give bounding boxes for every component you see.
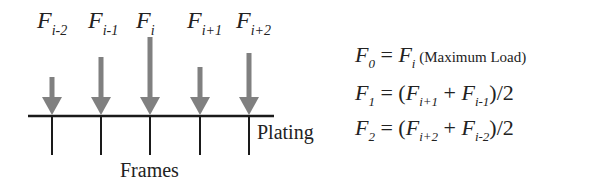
load-arrow-icon xyxy=(140,37,160,115)
load-arrow-icon xyxy=(239,53,259,115)
load-label-i-plus-2: Fi+2 xyxy=(236,8,271,38)
load-label-i: Fi xyxy=(136,8,155,38)
load-arrows xyxy=(42,37,259,115)
load-label-i-minus-2: Fi-2 xyxy=(37,8,67,38)
frames xyxy=(52,116,249,155)
load-label-i-minus-1: Fi-1 xyxy=(88,8,118,38)
load-arrow-icon xyxy=(91,57,111,115)
equation-f1: F1 = (Fi+1 + Fi-1)/2 xyxy=(355,82,514,108)
load-arrow-icon xyxy=(42,77,62,115)
plating-label: Plating xyxy=(257,122,314,142)
equation-f2: F2 = (Fi+2 + Fi-2)/2 xyxy=(355,117,514,143)
load-arrow-icon xyxy=(190,67,210,115)
load-label-i-plus-1: Fi+1 xyxy=(187,8,222,38)
frames-label: Frames xyxy=(120,160,179,180)
equation-f0: F0 = Fi (Maximum Load) xyxy=(355,44,526,70)
